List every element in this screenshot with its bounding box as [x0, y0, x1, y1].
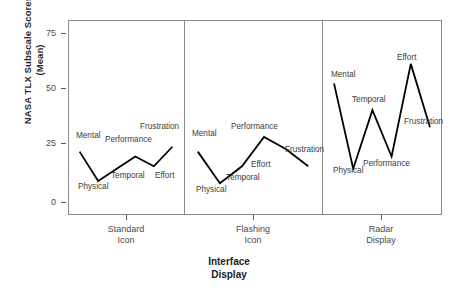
point-label-standard-icon-frustration: Frustration — [140, 122, 179, 131]
point-label-radar-display-frustration: Frustration — [404, 117, 443, 126]
point-label-flashing-icon-performance: Performance — [231, 122, 278, 131]
point-label-radar-display-temporal: Temporal — [352, 95, 386, 104]
point-label-flashing-icon-temporal: Temporal — [226, 173, 260, 182]
point-label-flashing-icon-physical: Physical — [196, 185, 227, 194]
point-label-flashing-icon-effort: Effort — [251, 160, 270, 169]
chart-figure: NASA TLX Subscale Scores (Mean) 75 50 25… — [0, 0, 458, 292]
point-label-radar-display-mental: Mental — [331, 70, 356, 79]
series-layer — [0, 0, 458, 292]
point-label-standard-icon-physical: Physical — [78, 182, 109, 191]
point-label-standard-icon-mental: Mental — [76, 131, 101, 140]
point-label-radar-display-performance: Performance — [363, 159, 410, 168]
point-label-radar-display-physical: Physical — [333, 166, 364, 175]
point-label-flashing-icon-frustration: Frustration — [285, 145, 324, 154]
point-label-flashing-icon-mental: Mental — [192, 129, 217, 138]
point-label-standard-icon-performance: Performance — [105, 135, 152, 144]
point-label-radar-display-effort: Effort — [397, 53, 416, 62]
point-label-standard-icon-effort: Effort — [155, 171, 174, 180]
point-label-standard-icon-temporal: Temporal — [111, 171, 145, 180]
